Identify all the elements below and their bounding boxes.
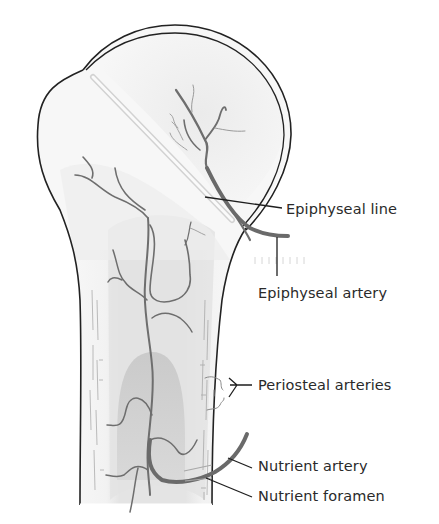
leader-nutrient-artery: [228, 458, 252, 468]
label-epiphyseal-artery: Epiphyseal artery: [258, 286, 387, 301]
leader-nutrient-foramen: [206, 478, 252, 497]
label-periosteal-arteries: Periosteal arteries: [258, 378, 392, 393]
label-epiphyseal-line: Epiphyseal line: [286, 202, 397, 217]
bone-blood-supply-diagram: Epiphyseal line Epiphyseal artery Perios…: [0, 0, 439, 524]
leader-periosteal-arteries: [229, 378, 252, 397]
bone-illustration: [0, 0, 439, 524]
label-nutrient-artery: Nutrient artery: [258, 459, 368, 474]
bone-body: [37, 25, 290, 520]
label-nutrient-foramen: Nutrient foramen: [258, 489, 385, 504]
tick-marks: [255, 257, 304, 264]
